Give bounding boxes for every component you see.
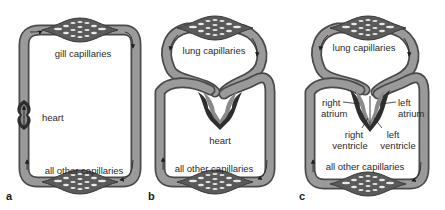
gill-capillary-bed-icon bbox=[42, 18, 118, 42]
left-ventricle-label: left bbox=[387, 129, 400, 140]
circulatory-diagram: gill capillaries heart all other capilla… bbox=[0, 0, 445, 210]
heart-label: heart bbox=[209, 135, 231, 146]
panel-letter: a bbox=[6, 190, 13, 202]
panel-letter: b bbox=[148, 190, 155, 202]
panel-a: gill capillaries heart all other capilla… bbox=[6, 18, 136, 202]
gill-capillaries-label: gill capillaries bbox=[55, 48, 112, 59]
lung-capillaries-label: lung capillaries bbox=[183, 45, 246, 56]
left-ventricle-label: ventricle bbox=[380, 140, 415, 151]
left-atrium-label: atrium bbox=[398, 108, 424, 119]
lung-capillaries-label: lung capillaries bbox=[333, 42, 396, 53]
left-atrium-label: left bbox=[398, 97, 411, 108]
right-atrium-label: right bbox=[322, 97, 341, 108]
all-other-capillaries-label: all other capillaries bbox=[45, 165, 124, 176]
body-capillary-bed-icon bbox=[330, 172, 406, 196]
heart-label: heart bbox=[42, 112, 64, 123]
lung-capillary-bed-icon bbox=[177, 16, 253, 40]
four-chamber-heart-icon bbox=[350, 90, 390, 132]
panel-letter: c bbox=[299, 190, 305, 202]
panel-b: lung capillaries heart all other capilla… bbox=[148, 16, 270, 202]
all-other-capillaries-label: all other capillaries bbox=[175, 163, 254, 174]
panel-c: lung capillaries right atrium left atriu… bbox=[299, 16, 424, 202]
right-ventricle-label: right bbox=[345, 129, 364, 140]
lung-capillary-bed-icon bbox=[330, 16, 406, 40]
heart-icon bbox=[17, 100, 30, 130]
all-other-capillaries-label: all other capillaries bbox=[326, 161, 405, 172]
right-ventricle-label: ventricle bbox=[332, 140, 367, 151]
right-atrium-label: atrium bbox=[321, 108, 347, 119]
